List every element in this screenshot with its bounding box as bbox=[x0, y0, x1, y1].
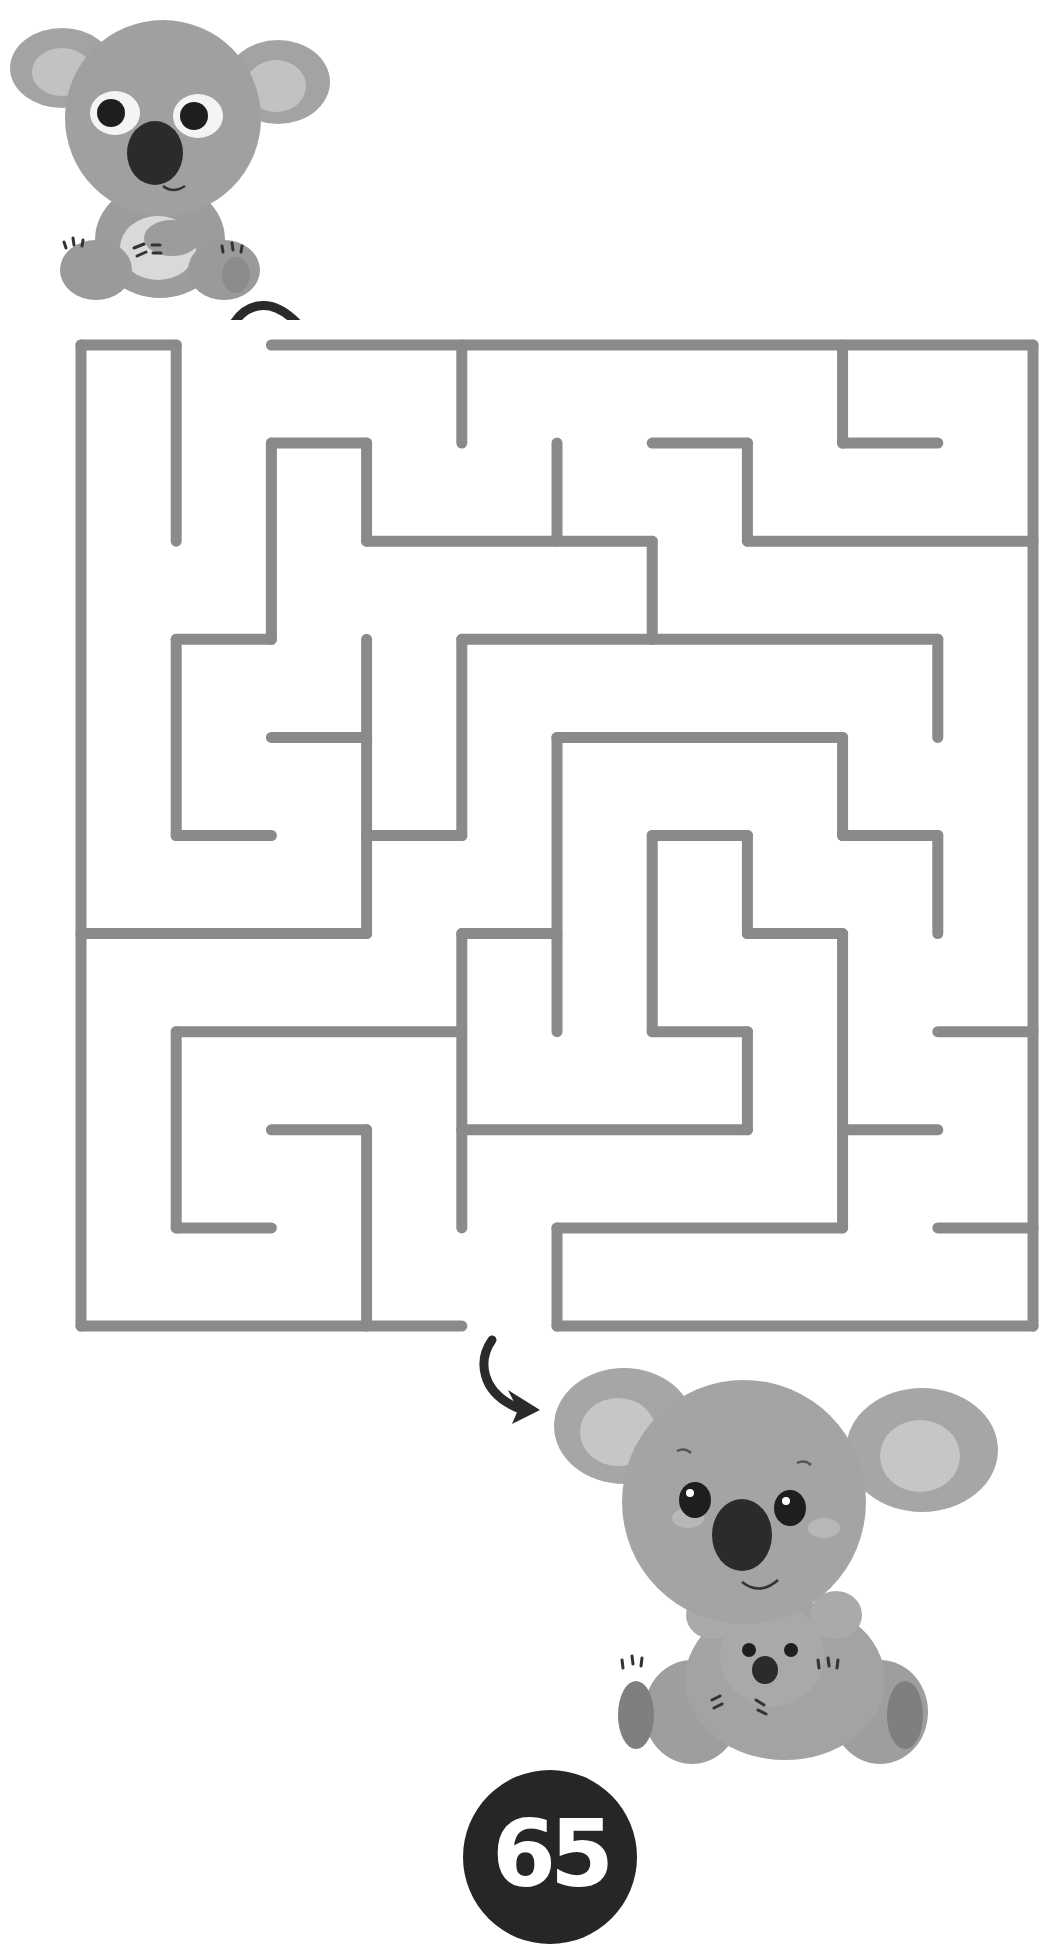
page-number-badge: 65 bbox=[463, 1770, 637, 1944]
finish-arrow-icon bbox=[484, 1340, 540, 1424]
goal-koala-illustration bbox=[0, 1320, 1064, 1780]
goal-koala bbox=[554, 1368, 998, 1764]
page-number: 65 bbox=[492, 1809, 608, 1901]
maze-grid bbox=[0, 0, 1064, 1360]
